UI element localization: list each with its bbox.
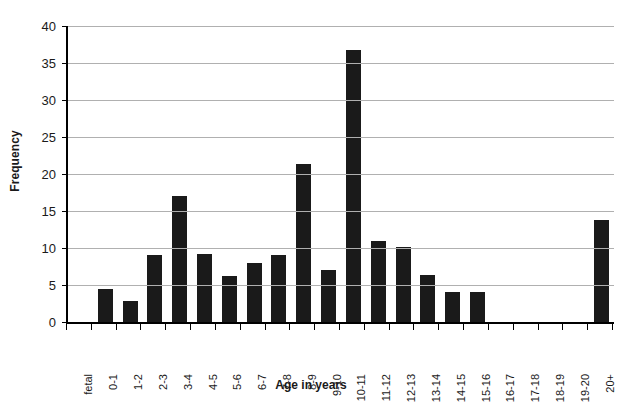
gridline — [68, 26, 614, 27]
gridline — [68, 285, 614, 286]
y-tick-label: 20 — [16, 168, 56, 181]
gridline — [68, 211, 614, 212]
bar — [470, 292, 485, 322]
x-tick-mark — [240, 324, 241, 330]
x-tick-mark — [140, 324, 141, 330]
y-tick-label: 25 — [16, 131, 56, 144]
bar — [197, 254, 212, 322]
bar — [147, 255, 162, 322]
bar — [247, 263, 262, 322]
gridline — [68, 248, 614, 249]
bar — [420, 275, 435, 322]
x-tick-mark — [438, 324, 439, 330]
x-axis-labels: fetal0-11-22-33-44-55-66-77-88-99-1010-1… — [66, 332, 612, 378]
y-tick-mark — [62, 174, 68, 175]
bar — [98, 289, 113, 322]
bar — [346, 50, 361, 322]
plot-area — [66, 26, 614, 324]
x-tick-mark — [587, 324, 588, 330]
x-tick-mark — [165, 324, 166, 330]
x-tick-mark — [364, 324, 365, 330]
y-tick-mark — [62, 211, 68, 212]
x-axis-ticks — [66, 324, 612, 332]
x-tick-mark — [513, 324, 514, 330]
x-tick-mark — [339, 324, 340, 330]
x-tick-mark — [215, 324, 216, 330]
y-tick-label: 35 — [16, 57, 56, 70]
y-tick-label: 0 — [16, 316, 56, 329]
y-tick-mark — [62, 322, 68, 323]
x-tick-mark — [538, 324, 539, 330]
x-tick-mark — [413, 324, 414, 330]
x-tick-mark — [612, 324, 613, 330]
x-tick-mark — [289, 324, 290, 330]
bar — [123, 301, 138, 322]
y-tick-mark — [62, 63, 68, 64]
y-tick-mark — [62, 137, 68, 138]
x-tick-mark — [265, 324, 266, 330]
x-tick-mark — [488, 324, 489, 330]
gridline — [68, 137, 614, 138]
bar — [296, 164, 311, 322]
y-tick-label: 10 — [16, 242, 56, 255]
bar — [594, 220, 609, 322]
y-tick-mark — [62, 285, 68, 286]
y-tick-label: 30 — [16, 94, 56, 107]
x-tick-mark — [116, 324, 117, 330]
bar — [271, 255, 286, 322]
x-tick-mark-origin — [66, 324, 67, 330]
y-tick-mark — [62, 26, 68, 27]
gridline — [68, 63, 614, 64]
gridline — [68, 174, 614, 175]
x-tick-mark — [562, 324, 563, 330]
gridline — [68, 100, 614, 101]
x-tick-mark — [314, 324, 315, 330]
y-tick-label: 40 — [16, 20, 56, 33]
x-tick-mark — [91, 324, 92, 330]
x-tick-mark — [389, 324, 390, 330]
x-tick-mark — [463, 324, 464, 330]
bar — [445, 292, 460, 322]
y-tick-mark — [62, 248, 68, 249]
frequency-by-age-bar-chart: Frequency 0510152025303540 fetal0-11-22-… — [0, 0, 622, 410]
y-tick-mark — [62, 100, 68, 101]
x-axis-title: Age in years — [0, 378, 622, 392]
bar — [222, 276, 237, 322]
y-tick-label: 15 — [16, 205, 56, 218]
y-axis-title: Frequency — [2, 0, 28, 322]
bar — [172, 196, 187, 322]
x-tick-mark — [190, 324, 191, 330]
bar — [321, 270, 336, 322]
y-tick-label: 5 — [16, 279, 56, 292]
bar — [371, 241, 386, 322]
